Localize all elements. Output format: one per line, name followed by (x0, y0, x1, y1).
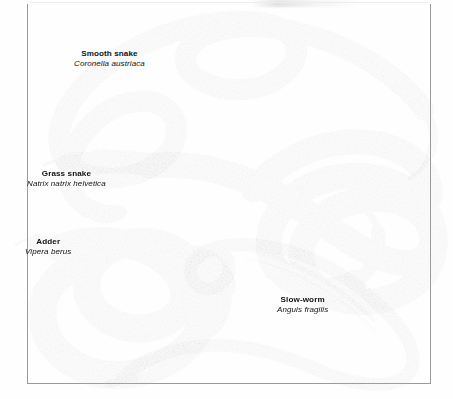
common-name-smooth-snake: Smooth snake (74, 50, 145, 59)
caption-grass-snake: Grass snake Natrix natrix helvetica (27, 170, 106, 188)
latin-name-adder: Vipera berus (25, 248, 71, 257)
latin-name-slow-worm: Anguis fragilis (277, 306, 328, 315)
common-name-grass-snake: Grass snake (27, 170, 106, 179)
caption-smooth-snake: Smooth snake Coronella austriaca (74, 50, 145, 68)
snakes-artwork (0, 0, 453, 399)
common-name-adder: Adder (25, 238, 71, 247)
caption-adder: Adder Vipera berus (25, 238, 71, 256)
latin-name-grass-snake: Natrix natrix helvetica (27, 180, 106, 189)
latin-name-smooth-snake: Coronella austriaca (74, 60, 145, 69)
illustration-plate: Smooth snake Coronella austriaca Grass s… (0, 0, 453, 399)
common-name-slow-worm: Slow-worm (277, 296, 328, 305)
caption-slow-worm: Slow-worm Anguis fragilis (277, 296, 328, 314)
